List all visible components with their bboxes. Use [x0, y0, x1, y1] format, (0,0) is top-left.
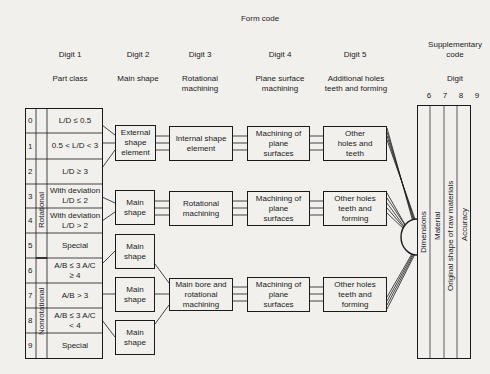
- supp-material: Material: [433, 212, 442, 240]
- supp-original-shape: Original shape of raw materials: [446, 181, 455, 291]
- supplementary-grid: [0, 0, 490, 374]
- supp-dimensions: Dimensions: [419, 211, 428, 253]
- supp-accuracy: Accuracy: [460, 208, 469, 241]
